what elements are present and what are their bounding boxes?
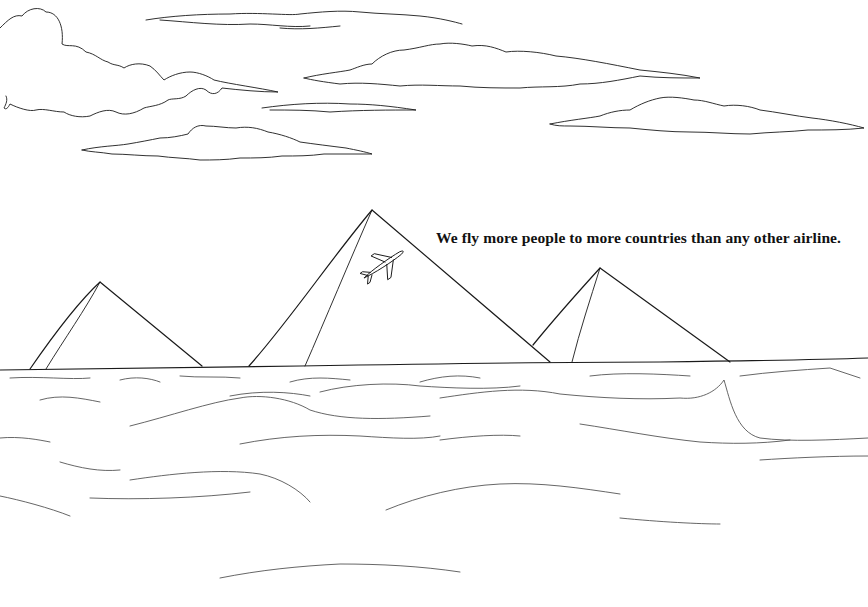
ad-tagline: We fly more people to more countries tha… — [436, 229, 841, 247]
sand-dunes — [0, 368, 868, 578]
cloud-small-streak — [262, 103, 416, 112]
clouds — [0, 9, 864, 160]
pyramid-right — [533, 268, 730, 362]
pyramid-center-edge — [305, 210, 372, 366]
scene-canvas — [0, 0, 868, 607]
pyramid-left-edge — [46, 282, 100, 369]
airplane-icon — [355, 239, 411, 290]
pyramid-right-edge — [572, 268, 600, 362]
cloud-mid-right — [304, 43, 700, 88]
cloud-top-streak — [146, 11, 462, 29]
cloud-far-right — [550, 97, 864, 134]
horizon-line — [0, 358, 868, 370]
pyramid-left — [30, 282, 202, 369]
cloud-lower-left — [82, 125, 372, 160]
